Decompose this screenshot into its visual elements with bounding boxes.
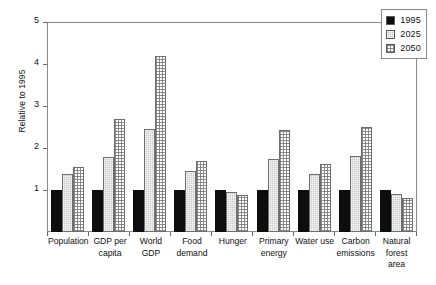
x-axis-labels: PopulationGDP per capitaWorld GDPFood de… — [47, 236, 417, 271]
bar-2050[interactable] — [320, 164, 331, 232]
bar-2050[interactable] — [402, 198, 413, 232]
bar-2025[interactable] — [226, 192, 237, 232]
bar-2050[interactable] — [114, 119, 125, 232]
bar-group — [211, 22, 252, 232]
bar-1995[interactable] — [298, 190, 309, 232]
y-axis-tick-label: 2 — [34, 141, 39, 151]
bar-2025[interactable] — [103, 157, 114, 232]
bar-1995[interactable] — [51, 190, 62, 232]
bar-group — [88, 22, 129, 232]
bar-2050[interactable] — [155, 56, 166, 232]
bar-groups — [47, 22, 417, 232]
bar-2050[interactable] — [73, 167, 84, 232]
x-axis-label: GDP per capita — [90, 236, 131, 271]
bar-1995[interactable] — [339, 190, 350, 232]
bar-2025[interactable] — [391, 194, 402, 232]
bar-group — [253, 22, 294, 232]
bar-1995[interactable] — [92, 190, 103, 232]
bar-2025[interactable] — [350, 156, 361, 232]
bar-1995[interactable] — [133, 190, 144, 232]
bar-2025[interactable] — [62, 174, 73, 232]
y-axis-tick-label: 1 — [34, 183, 39, 193]
bar-2050[interactable] — [237, 195, 248, 232]
x-axis-label: Primary energy — [253, 236, 294, 271]
legend-item[interactable]: 1995 — [386, 13, 421, 27]
y-axis-title: Relative to 1995 — [17, 31, 27, 171]
gray-stipple-swatch — [386, 30, 395, 39]
bar-group — [335, 22, 376, 232]
bar-group — [294, 22, 335, 232]
x-axis-label: Hunger — [212, 236, 253, 271]
bar-2050[interactable] — [279, 130, 290, 232]
legend-item-label: 1995 — [400, 15, 421, 25]
legend: 199520252050 — [381, 9, 427, 59]
bar-group — [129, 22, 170, 232]
bar-group — [47, 22, 88, 232]
bar-1995[interactable] — [257, 190, 268, 232]
y-axis-tick-label: 3 — [34, 99, 39, 109]
y-axis-tick-label: 5 — [34, 15, 39, 25]
bar-2025[interactable] — [185, 171, 196, 232]
x-axis-label: Food demand — [171, 236, 212, 271]
bar-1995[interactable] — [380, 190, 391, 232]
legend-item-label: 2050 — [400, 43, 421, 53]
bar-2025[interactable] — [309, 174, 320, 232]
x-axis-label: World GDP — [131, 236, 172, 271]
x-axis-label: Water use — [294, 236, 335, 271]
bar-2050[interactable] — [196, 161, 207, 232]
legend-item[interactable]: 2025 — [386, 27, 421, 41]
y-axis-tick-label: 4 — [34, 57, 39, 67]
bar-group — [170, 22, 211, 232]
bar-1995[interactable] — [215, 190, 226, 232]
legend-item-label: 2025 — [400, 29, 421, 39]
legend-item[interactable]: 2050 — [386, 41, 421, 55]
x-axis-label: Natural forest area — [376, 236, 417, 271]
bar-1995[interactable] — [174, 190, 185, 232]
solid-black-swatch — [386, 16, 395, 25]
bar-2025[interactable] — [144, 129, 155, 232]
bar-2050[interactable] — [361, 127, 372, 232]
bar-2025[interactable] — [268, 159, 279, 233]
x-axis-label: Carbon emissions — [335, 236, 376, 271]
white-checker-swatch — [386, 44, 395, 53]
bar-chart: Relative to 1995 12345 PopulationGDP per… — [0, 0, 436, 285]
x-axis-label: Population — [47, 236, 90, 271]
